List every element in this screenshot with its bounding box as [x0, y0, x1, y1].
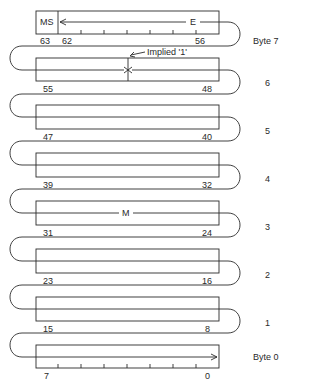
bit-label-47: 47 [43, 132, 53, 142]
byte-7-ticks [81, 30, 196, 34]
bit-label-40: 40 [202, 132, 212, 142]
byte-label-0: Byte 0 [253, 352, 279, 362]
bit-label-31: 31 [43, 228, 53, 238]
byte-label-4: 4 [265, 174, 270, 184]
bit-label-0: 0 [205, 371, 210, 381]
bit-label-39: 39 [43, 180, 53, 190]
byte-label-7: Byte 7 [253, 36, 279, 46]
sign-field-label: MS [40, 17, 54, 27]
bit-label-62: 62 [62, 36, 72, 46]
bit-label-55: 55 [43, 84, 53, 94]
bit-label-7: 7 [44, 371, 49, 381]
bit-label-56: 56 [195, 36, 205, 46]
byte-0-box [36, 345, 219, 368]
bit-label-24: 24 [202, 228, 212, 238]
bit-label-15: 15 [43, 324, 53, 334]
bit-label-63: 63 [40, 36, 50, 46]
bit-label-16: 16 [202, 276, 212, 286]
byte-label-1: 1 [265, 318, 270, 328]
byte-0-ticks [58, 364, 196, 368]
byte-label-2: 2 [265, 270, 270, 280]
bit-label-32: 32 [202, 180, 212, 190]
byte-label-5: 5 [265, 126, 270, 136]
bit-label-48: 48 [202, 84, 212, 94]
mantissa-field-label: M [122, 208, 130, 218]
byte-label-3: 3 [265, 222, 270, 232]
implied-bit-label: Implied '1' [147, 47, 187, 57]
byte-label-6: 6 [265, 78, 270, 88]
exponent-field-label: E [190, 17, 196, 27]
bit-label-8: 8 [205, 324, 210, 334]
bit-label-23: 23 [43, 276, 53, 286]
